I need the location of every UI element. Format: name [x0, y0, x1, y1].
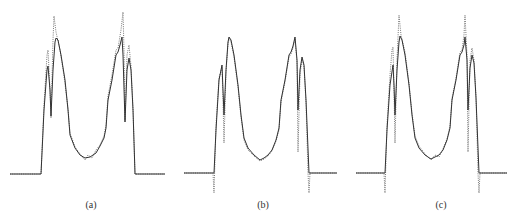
panel-label-c: (c): [435, 200, 446, 210]
solid-profile-line: [10, 37, 165, 174]
panel-b: [184, 37, 337, 193]
panel-c: [356, 15, 507, 193]
signal-profile-plots: [0, 0, 515, 220]
dotted-profile-line: [10, 12, 165, 174]
figure: (a) (b) (c): [0, 0, 515, 220]
panel-label-a: (a): [85, 200, 96, 210]
panel-label-b: (b): [257, 200, 269, 210]
dotted-profile-line: [184, 38, 337, 193]
panel-a: [10, 12, 165, 174]
solid-profile-line: [356, 36, 507, 173]
dotted-profile-line: [356, 15, 507, 193]
solid-profile-line: [184, 37, 337, 173]
